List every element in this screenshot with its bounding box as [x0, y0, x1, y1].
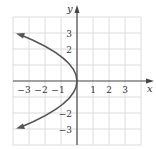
x-tick-label: 2 [106, 85, 112, 95]
x-axis-label: x [147, 83, 153, 94]
y-tick-label: −2 [59, 109, 72, 119]
x-tick-label: 1 [90, 85, 96, 95]
chart-canvas: x y −3 −2 −1 1 2 3 3 2 −2 −3 [0, 0, 156, 149]
curve-arrow-bottom-icon [16, 124, 25, 130]
y-axis-arrow-icon [75, 5, 80, 13]
x-tick-label: −2 [34, 85, 47, 95]
x-tick-label: 3 [122, 85, 128, 95]
x-tick-label: −1 [51, 85, 64, 95]
y-tick-label: 3 [66, 29, 72, 39]
curve-arrow-top-icon [16, 33, 25, 39]
x-tick-label: −3 [17, 85, 31, 95]
y-tick-label: 2 [66, 45, 72, 55]
y-axis-label: y [66, 3, 73, 14]
y-tick-label: −3 [59, 125, 73, 135]
x-axis [13, 79, 154, 84]
